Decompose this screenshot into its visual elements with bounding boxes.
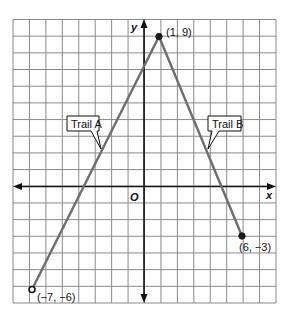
coordinate-plane-diagram: x y O (1, 9) (−7, −6) (6, −3) Trail A Tr…	[0, 0, 289, 323]
callout-trail-a-label: Trail A	[71, 118, 102, 130]
point-label-trail-a-start: (−7, −6)	[37, 291, 76, 303]
point-trail-a-start	[29, 287, 35, 293]
point-label-trail-b-end: (6, −3)	[239, 241, 271, 253]
point-peak	[156, 33, 162, 39]
point-trail-b-end	[239, 233, 245, 239]
callout-trail-a: Trail A	[67, 116, 102, 149]
x-axis-left-arrow-icon	[13, 183, 22, 190]
x-axis-label: x	[265, 189, 273, 201]
y-axis-down-arrow-icon	[141, 294, 148, 303]
callout-trail-b-label: Trail B	[212, 118, 243, 130]
origin-label: O	[130, 191, 139, 203]
y-axis-up-arrow-icon	[141, 19, 148, 28]
point-label-peak: (1, 9)	[166, 26, 192, 38]
callout-trail-b: Trail B	[208, 116, 243, 149]
y-axis-label: y	[130, 21, 138, 33]
